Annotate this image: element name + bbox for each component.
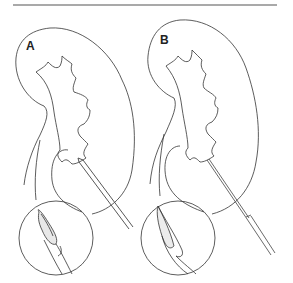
panel-a-kidney (16, 28, 135, 214)
panel-b-kidney (148, 20, 259, 214)
panel-a-needle (78, 158, 133, 229)
panel-b-inset (141, 201, 215, 275)
panel-b-label: B (160, 33, 169, 47)
panel-b-needle (207, 159, 275, 255)
panel-a-inset (19, 201, 93, 275)
figure-canvas (0, 0, 293, 283)
panel-a-label: A (26, 39, 35, 53)
